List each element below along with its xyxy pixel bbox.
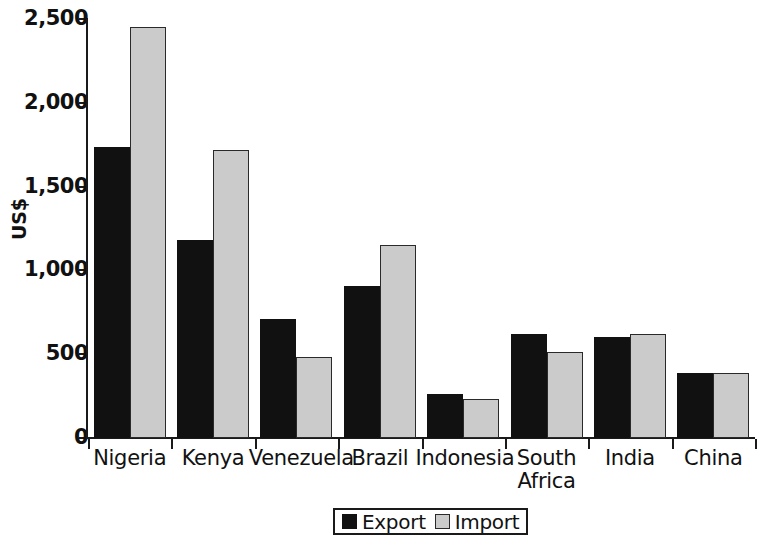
- bar-export-venezuela: [260, 319, 296, 438]
- x-axis-label-venezuela: Venezuela: [249, 447, 344, 470]
- bar-export-nigeria: [94, 147, 130, 438]
- y-axis-tick-label: 1,500: [16, 176, 88, 197]
- bar-import-indonesia: [463, 399, 499, 438]
- legend-label: Export: [362, 512, 426, 532]
- x-axis-label-brazil: Brazil: [332, 447, 427, 470]
- legend-swatch-import-icon: [435, 514, 450, 529]
- y-axis-tick-label: 2,000: [16, 92, 88, 113]
- bar-export-china: [677, 373, 713, 438]
- bar-import-china: [713, 373, 749, 438]
- x-axis-label-nigeria: Nigeria: [82, 447, 177, 470]
- legend-swatch-export-icon: [342, 514, 357, 529]
- bar-export-indonesia: [427, 394, 463, 438]
- bar-export-india: [594, 337, 630, 438]
- y-axis-tick-label: 1,000: [16, 259, 88, 280]
- bar-import-brazil: [380, 245, 416, 438]
- y-axis-tick-label: 500: [16, 343, 88, 364]
- legend-label: Import: [455, 512, 520, 532]
- x-axis-label-kenya: Kenya: [165, 447, 260, 470]
- bar-export-south-africa: [511, 334, 547, 438]
- x-axis-label-indonesia: Indonesia: [416, 447, 511, 470]
- plot-area: [88, 19, 755, 438]
- x-axis-label-south-africa: South Africa: [499, 447, 594, 492]
- bar-import-kenya: [213, 150, 249, 438]
- y-axis-tick-label: 2,500: [16, 8, 88, 29]
- x-axis-label-china: China: [666, 447, 761, 470]
- chart-legend: ExportImport: [333, 508, 528, 535]
- bar-export-kenya: [177, 240, 213, 438]
- bar-import-south-africa: [547, 352, 583, 438]
- bar-chart: US$ 05001,0001,5002,0002,500 NigeriaKeny…: [0, 0, 769, 538]
- x-axis-label-india: India: [582, 447, 677, 470]
- bar-import-venezuela: [296, 357, 332, 438]
- bar-import-nigeria: [130, 27, 166, 438]
- legend-item-import[interactable]: Import: [435, 512, 520, 532]
- y-axis-tick-label: 0: [16, 427, 88, 448]
- bar-import-india: [630, 334, 666, 438]
- legend-item-export[interactable]: Export: [342, 512, 426, 532]
- bar-export-brazil: [344, 286, 380, 438]
